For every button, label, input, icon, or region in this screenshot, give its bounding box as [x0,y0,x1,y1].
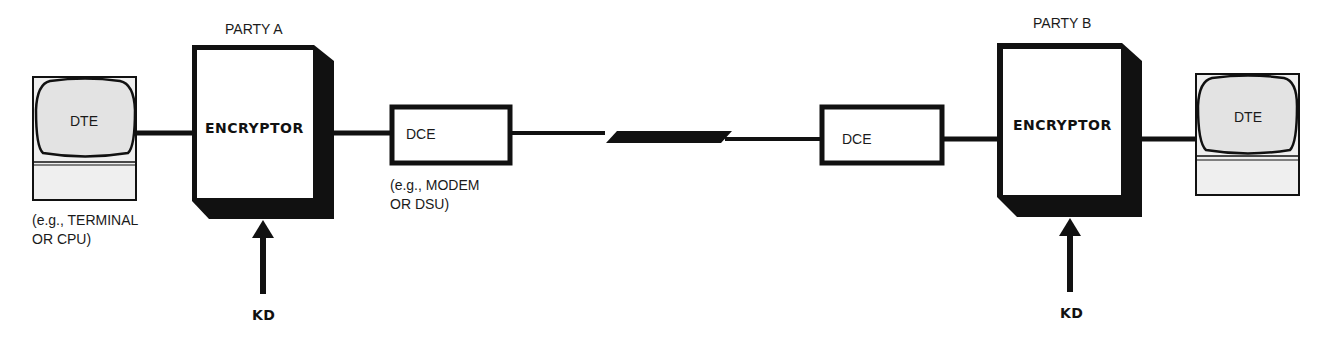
dte-a-label: DTE [70,113,98,129]
dte-a-note-line1: (e.g., TERMINAL [32,212,139,228]
key-input-b-shaft [1067,234,1073,292]
key-input-a: KD [252,220,275,323]
communication-link-break-icon [606,131,732,143]
key-input-b: KD [1059,218,1083,321]
key-input-a-shaft [260,236,266,294]
dte-a: DTE [33,77,136,200]
dte-b-label: DTE [1234,109,1262,125]
dce-b-label: DCE [842,131,872,147]
encryptor-a: ENCRYPTOR [192,45,334,219]
kd-a-label: KD [252,307,275,323]
dce-a-note-line1: (e.g., MODEM [390,177,479,193]
arrow-up-icon [252,220,274,238]
dce-b-box [822,107,942,163]
dte-a-note-line2: OR CPU) [32,231,91,247]
encryptor-b: ENCRYPTOR [997,43,1142,217]
party-a-label: PARTY A [225,21,283,37]
dce-a-label: DCE [406,126,436,142]
dte-b: DTE [1196,74,1299,195]
party-b-label: PARTY B [1033,15,1091,31]
encryptor-b-label: ENCRYPTOR [1013,117,1112,133]
encryption-link-diagram: DTE (e.g., TERMINAL OR CPU) PARTY A ENCR… [0,0,1325,345]
dce-a-note-line2: OR DSU) [390,196,449,212]
arrow-up-icon [1059,218,1081,236]
dce-a: DCE [392,107,510,163]
dce-b: DCE [822,107,942,163]
encryptor-a-label: ENCRYPTOR [205,120,304,136]
kd-b-label: KD [1060,305,1083,321]
